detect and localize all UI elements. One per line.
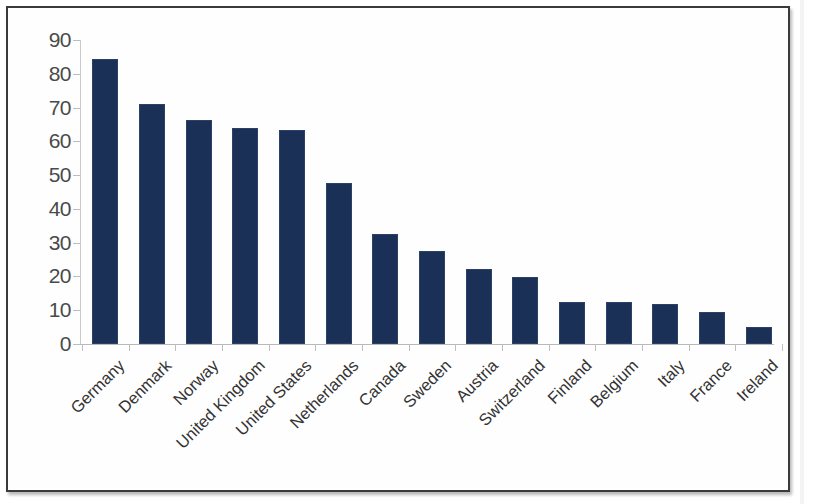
bar [232, 128, 258, 344]
bar [419, 251, 445, 344]
bar [606, 302, 632, 344]
y-tick-mark [73, 344, 80, 345]
y-tick-label: 20 [49, 265, 71, 286]
x-tick-mark [269, 344, 270, 351]
y-axis-line [80, 40, 81, 344]
bar [652, 304, 678, 344]
x-tick-mark [735, 344, 736, 351]
x-tick-label-text: Sweden [400, 356, 455, 411]
x-tick-mark [502, 344, 503, 351]
x-tick-label-text: Italy [654, 356, 688, 390]
bar [559, 302, 585, 344]
y-tick-label: 0 [60, 333, 71, 354]
bar [512, 277, 538, 344]
y-tick-mark [73, 141, 80, 142]
bar [746, 327, 772, 344]
y-tick-mark [73, 243, 80, 244]
x-tick-mark [455, 344, 456, 351]
x-tick-label-text: Canada [354, 356, 408, 410]
x-tick-label-text: Belgium [586, 356, 641, 411]
y-tick-label: 90 [49, 29, 71, 50]
y-tick-label: 70 [49, 97, 71, 118]
bar-chart: 0102030405060708090 GermanyDenmarkNorway… [8, 8, 792, 494]
bar [326, 183, 352, 344]
y-tick-mark [73, 40, 80, 41]
x-tick-mark [549, 344, 550, 351]
x-tick-mark [82, 344, 83, 351]
scan-page-edge [800, 0, 804, 504]
x-axis-line [80, 344, 774, 345]
y-tick-mark [73, 74, 80, 75]
y-tick-label: 60 [49, 130, 71, 151]
y-tick-label: 40 [49, 198, 71, 219]
x-tick-mark [129, 344, 130, 351]
y-tick-mark [73, 108, 80, 109]
y-tick-label: 10 [49, 299, 71, 320]
y-tick-label: 80 [49, 63, 71, 84]
x-tick-mark [315, 344, 316, 351]
bar [92, 59, 118, 344]
bar [279, 130, 305, 344]
bar [186, 120, 212, 344]
x-tick-label-text: Ireland [733, 356, 781, 404]
x-tick-label-text: France [686, 356, 735, 405]
y-tick-mark [73, 276, 80, 277]
y-tick-mark [73, 209, 80, 210]
bar [372, 234, 398, 344]
bar [466, 269, 492, 344]
x-tick-mark [595, 344, 596, 351]
x-tick-mark [222, 344, 223, 351]
bar [139, 104, 165, 344]
x-tick-mark [175, 344, 176, 351]
chart-page-frame: 0102030405060708090 GermanyDenmarkNorway… [6, 6, 790, 492]
x-tick-mark [689, 344, 690, 351]
x-tick-mark [362, 344, 363, 351]
x-tick-mark [409, 344, 410, 351]
y-tick-mark [73, 175, 80, 176]
plot-area: 0102030405060708090 GermanyDenmarkNorway… [80, 34, 780, 350]
y-tick-label: 30 [49, 232, 71, 253]
y-tick-mark [73, 310, 80, 311]
x-tick-mark [642, 344, 643, 351]
x-tick-mark [782, 344, 783, 351]
bar [699, 312, 725, 344]
y-tick-label: 50 [49, 164, 71, 185]
